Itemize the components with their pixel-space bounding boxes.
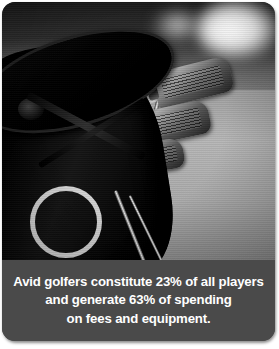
caption-line-3: on fees and equipment.	[67, 310, 211, 329]
golf-stat-card: Avid golfers constitute 23% of all playe…	[2, 2, 275, 341]
caption-line-1: Avid golfers constitute 23% of all playe…	[13, 273, 263, 292]
golf-bag-ring	[30, 186, 102, 258]
caption-line-2: and generate 63% of spending	[45, 291, 231, 310]
golf-photo	[2, 2, 275, 260]
caption-band: Avid golfers constitute 23% of all playe…	[2, 260, 275, 341]
